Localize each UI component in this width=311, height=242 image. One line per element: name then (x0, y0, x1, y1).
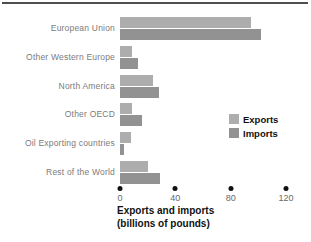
exports-bar (120, 17, 251, 28)
imports-bar (120, 29, 261, 40)
tick-dot-icon (284, 186, 289, 191)
category-label: Other OECD (0, 109, 115, 120)
imports-bar (120, 144, 124, 155)
imports-swatch-icon (229, 128, 239, 138)
exports-bar (120, 75, 153, 86)
legend-item-imports: Imports (229, 126, 278, 140)
imports-bar (120, 87, 159, 98)
tick-label: 0 (117, 193, 122, 203)
category-label: European Union (0, 23, 115, 34)
exports-swatch-icon (229, 114, 239, 124)
imports-bar (120, 173, 160, 184)
imports-bar (120, 58, 138, 69)
exports-bar (120, 161, 148, 172)
tick-dot-icon (228, 186, 233, 191)
tick-dot-icon (173, 186, 178, 191)
axis-title-line1: Exports and imports (117, 204, 214, 217)
category-label: Other Western Europe (0, 52, 115, 63)
legend-imports-label: Imports (243, 128, 278, 139)
imports-bar (120, 115, 142, 126)
exports-bar (120, 46, 132, 57)
top-rule (2, 2, 308, 4)
axis-title-line2: (billions of pounds) (117, 217, 214, 230)
exports-bar (120, 103, 132, 114)
legend-exports-label: Exports (243, 114, 278, 125)
legend: Exports Imports (229, 112, 278, 140)
exports-bar (120, 132, 131, 143)
axis-title: Exports and imports (billions of pounds) (117, 204, 214, 230)
chart-figure: European UnionOther Western EuropeNorth … (0, 0, 311, 242)
tick-label: 40 (170, 193, 180, 203)
category-label: North America (0, 81, 115, 92)
tick-label: 120 (278, 193, 293, 203)
tick-label: 80 (226, 193, 236, 203)
category-label: Rest of the World (0, 167, 115, 178)
category-label: Oil Exporting countries (0, 138, 115, 149)
legend-item-exports: Exports (229, 112, 278, 126)
tick-dot-icon (118, 186, 123, 191)
